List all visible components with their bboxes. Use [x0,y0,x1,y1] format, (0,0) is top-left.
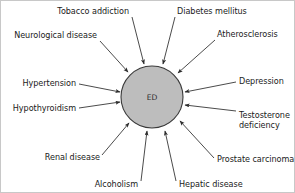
arrow-renal-disease [102,123,129,155]
arrow-diabetes-mellitus [163,17,175,64]
node-label-line: Alcoholism [95,179,139,189]
arrow-testosterone-deficiency [185,105,236,111]
arrow-prostate-carcinoma [180,121,214,158]
node-label-alcoholism: Alcoholism [95,179,139,189]
node-label-line: Hypertension [22,78,76,88]
node-label-hepatic-disease: Hepatic disease [179,179,243,189]
arrow-depression [185,82,236,92]
arrow-hypertension [79,84,120,92]
node-label-line: Renal disease [45,152,100,162]
arrow-atherosclerosis [178,40,215,73]
arrow-neurological-disease [100,41,128,72]
node-label-line: Depression [239,76,284,86]
arrow-hepatic-disease [165,131,176,181]
arrow-alcoholism [141,131,147,181]
node-label-line: Atherosclerosis [217,29,278,39]
node-label-hypertension: Hypertension [22,78,76,88]
node-label-line: deficiency [239,120,280,130]
node-label-line: Diabetes mellitus [177,6,247,16]
arrow-tobacco-addiction [132,17,144,64]
node-label-line: Neurological disease [14,30,97,40]
node-label-depression: Depression [239,76,284,86]
node-label-line: Hepatic disease [179,179,243,189]
diagram-canvas: ED Tobacco addictionDiabetes mellitusNeu… [0,0,295,193]
node-label-hypothyroidism: Hypothyroidism [13,103,76,113]
node-label-tobacco-addiction: Tobacco addiction [56,6,129,16]
center-node-label: ED [147,93,158,102]
node-label-line: Testosterone [238,110,290,120]
node-label-neurological-disease: Neurological disease [14,30,97,40]
node-label-testosterone-deficiency: Testosteronedeficiency [238,110,290,130]
arrow-hypothyroidism [79,102,120,108]
node-label-diabetes-mellitus: Diabetes mellitus [177,6,247,16]
node-label-line: Hypothyroidism [13,103,76,113]
radial-diagram: ED Tobacco addictionDiabetes mellitusNeu… [1,1,295,193]
node-label-atherosclerosis: Atherosclerosis [217,29,278,39]
node-label-line: Prostate carcinoma [217,154,294,164]
node-label-renal-disease: Renal disease [45,152,100,162]
node-label-line: Tobacco addiction [56,6,129,16]
node-label-prostate-carcinoma: Prostate carcinoma [217,154,294,164]
